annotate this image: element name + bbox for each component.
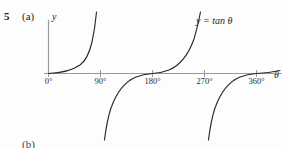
x-tick-label-180: 180°	[144, 76, 160, 86]
tangent-graph-plot	[0, 0, 282, 148]
x-tick-label-90: 90°	[95, 76, 107, 86]
figure-page: 5 (a) y θ y = tan θ 0° 90° 18	[0, 0, 282, 148]
x-tick-label-0: 0°	[45, 76, 53, 86]
tan-branch-first	[49, 12, 97, 74]
x-tick-label-360: 360°	[248, 76, 264, 86]
x-tick-label-270: 270°	[196, 76, 212, 86]
part-label-b: (b)	[22, 139, 35, 148]
tan-branch-third	[209, 71, 281, 141]
